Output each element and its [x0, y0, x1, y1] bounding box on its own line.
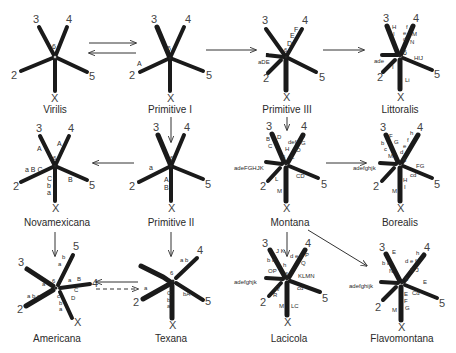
arm-label-3: 3: [18, 256, 24, 268]
arm-label-3: 3: [153, 121, 159, 133]
arm-label-x: X: [51, 92, 59, 104]
inversion-label: I: [392, 64, 394, 70]
arm-label-3: 3: [383, 12, 389, 24]
species-name-primitive2: Primitive II: [148, 217, 195, 228]
karyotype-primitive2: 3 4 2 5 6 X a A B Primitive II: [129, 121, 211, 228]
arm-label-2: 2: [260, 296, 266, 308]
inversion-label: b c: [382, 260, 390, 266]
inversion-label: A: [137, 60, 142, 67]
karyotype-borealis: 3 4 2 5 6 X F G b c M h f e d adefghjk F…: [353, 121, 440, 228]
species-name-montana: Montana: [271, 217, 310, 228]
inversion-label: D: [287, 40, 292, 47]
inversion-label: a: [47, 189, 51, 196]
inversion-label: adeFGHJK: [234, 165, 264, 171]
species-name-flavomontana: Flavomontana: [370, 333, 434, 344]
arm-label-4: 4: [417, 121, 423, 133]
inversion-label: M: [412, 31, 417, 37]
inversion-label: f: [407, 137, 409, 143]
karyotype-virilis: 3 4 2 5 6 X Virilis: [11, 13, 95, 115]
species-name-lacicola: Lacicola: [271, 333, 308, 344]
karyotype-primitive3: 3 4 2 5 6 X aDE D E F Primitive III: [258, 14, 325, 115]
species-name-virilis: Virilis: [43, 104, 67, 115]
karyotype-littoralis: 3 4 2 5 6 X H I f e d M N ade I HIJ Li L…: [374, 12, 440, 115]
inversion-label: F: [294, 26, 298, 33]
karyotype-montana: 3 4 2 5 6 X B C D def H I G O L adeFGHJK…: [234, 120, 327, 228]
arm-label-2: 2: [11, 69, 17, 81]
inversion-label: B: [266, 136, 270, 142]
inversion-label: c: [57, 293, 60, 299]
karyotype-americana: 3 5 4 2 6 X a a b c b a a B C c b a D Am…: [17, 240, 98, 344]
inversion-label: F: [404, 298, 408, 304]
inversion-label: aDE: [258, 59, 270, 65]
inversion-label: cd: [410, 172, 416, 178]
inversion-label: adefghjk: [234, 279, 258, 285]
arm-label-3: 3: [151, 13, 157, 25]
arm-label-2: 2: [17, 303, 23, 315]
arm-label-4: 4: [301, 120, 307, 132]
inversion-label: B: [164, 184, 169, 191]
inversion-label: P: [305, 252, 309, 258]
arm-label-4: 4: [305, 237, 311, 249]
inversion-label: B: [77, 276, 81, 282]
arm-label-2: 2: [129, 180, 135, 192]
arm-label-4: 4: [197, 244, 203, 256]
species-name-americana: Americana: [33, 333, 81, 344]
karyotype-flavomontana: 3 4 2 5 6 X E b c N d e f h K J adefghij…: [349, 241, 445, 344]
karyotype-novamexicana: 3 4 2 5 6 X A A a B C B C b a Novamexica…: [13, 122, 95, 228]
species-name-borealis: Borealis: [382, 217, 418, 228]
inversion-label: A: [37, 145, 42, 152]
inversion-label: I: [404, 184, 406, 190]
arm-label-5: 5: [319, 71, 325, 83]
arm-label-x: X: [169, 319, 177, 331]
arm-label-3: 3: [33, 13, 39, 25]
arm-label-x: X: [397, 202, 405, 214]
arm-label-x: X: [284, 316, 292, 328]
inversion-label: E: [392, 249, 396, 255]
arm-label-4: 4: [185, 13, 191, 25]
arm-label-2: 2: [373, 180, 379, 192]
arm-label-5: 5: [439, 297, 445, 309]
inversion-label: A: [164, 176, 169, 183]
arm-label-x: X: [283, 202, 291, 214]
inversion-label: bA: [183, 291, 190, 297]
inversion-label: C: [167, 290, 172, 296]
arm-label-4: 4: [66, 13, 72, 25]
species-name-primitive3: Primitive III: [262, 104, 311, 115]
inversion-label: G: [301, 140, 306, 146]
inversion-label: d e f: [290, 253, 302, 259]
arm-label-2: 2: [129, 69, 135, 81]
arm-label-6: 6: [52, 278, 56, 284]
inversion-label: a: [68, 277, 72, 283]
inversion-label: FG: [416, 163, 425, 169]
inversion-label: Q: [301, 260, 306, 266]
arm-label-2: 2: [263, 72, 269, 84]
inversion-label: M: [392, 307, 397, 313]
arm-label-4: 4: [184, 121, 190, 133]
arm-label-x: X: [74, 316, 82, 328]
inversion-label: ade: [374, 58, 385, 64]
arm-label-5: 5: [206, 69, 212, 81]
inversion-label: M: [392, 188, 397, 194]
karyotype-lacicola: 3 4 2 5 6 X J K b c h d e f P Q OP adefg…: [234, 237, 328, 344]
arm-label-4: 4: [424, 241, 430, 253]
arm-label-x: X: [52, 202, 60, 214]
arm-label-x: X: [168, 202, 176, 214]
inversion-label: HIJ: [414, 55, 423, 61]
inversion-label: A: [57, 140, 62, 147]
inversion-label: N: [410, 39, 414, 45]
inversion-label: CD: [296, 173, 305, 179]
arm-label-3: 3: [379, 241, 385, 253]
arm-label-2: 2: [375, 301, 381, 313]
arm-label-6: 6: [167, 45, 171, 52]
inversion-label: C: [268, 143, 273, 149]
inversion-label: adefghjk: [353, 165, 377, 171]
inversion-label: h: [410, 130, 413, 136]
arm-label-6: 6: [52, 43, 56, 50]
arm-label-2: 2: [377, 71, 383, 83]
arm-label-2: 2: [260, 180, 266, 192]
inversion-label: cd: [297, 285, 303, 291]
arm-label-x: X: [167, 92, 175, 104]
arm-label-3: 3: [262, 237, 268, 249]
inversion-label: adefghijk: [349, 283, 374, 289]
inversion-label: B: [68, 176, 73, 183]
